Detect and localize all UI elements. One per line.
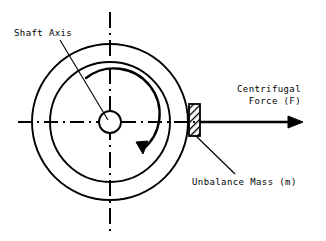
shaft-axis-label: Shaft Axis [14, 27, 72, 39]
centrifugal-force-label: CentrifugalForce (F) [237, 83, 301, 107]
rotation-direction-arc [86, 68, 160, 150]
centrifugal-force-arrowhead [288, 116, 303, 128]
centrifugal-force-label-line1: Centrifugal [237, 84, 301, 94]
figure-canvas: Shaft Axis CentrifugalForce (F) Unbalanc… [0, 0, 326, 241]
unbalance-mass-block [189, 104, 200, 136]
centrifugal-force-label-line2: Force (F) [237, 95, 301, 107]
unbalance-mass-leader-line [196, 136, 235, 174]
shaft-hub-circle [99, 111, 121, 133]
unbalance-mass-label: Unbalance Mass (m) [192, 176, 297, 188]
